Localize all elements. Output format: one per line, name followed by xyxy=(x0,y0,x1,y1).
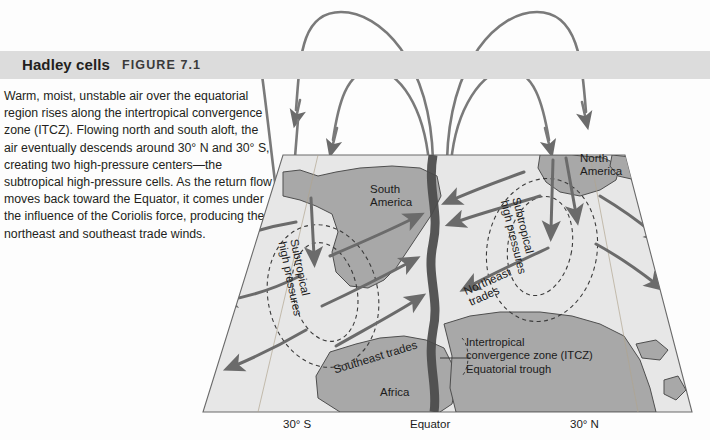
label-itcz: Intertropical convergence zone (ITCZ) Eq… xyxy=(466,336,636,376)
arc-upper-left-inner xyxy=(333,70,429,163)
label-south-america: South America xyxy=(370,183,440,208)
ascending-limb-right xyxy=(452,170,457,196)
caption-text: Warm, moist, unstable air over the equat… xyxy=(4,88,272,243)
figure-number: FIGURE 7.1 xyxy=(122,58,201,72)
arc-upper-left-outer xyxy=(296,12,433,160)
arc-upper-right-outer xyxy=(447,12,586,160)
figure-caption: Warm, moist, unstable air over the equat… xyxy=(4,88,272,243)
axis-label-30n: 30° N xyxy=(570,418,599,431)
axis-label-30s: 30° S xyxy=(283,418,311,431)
axis-label-equator: Equator xyxy=(410,418,450,431)
label-africa: Africa xyxy=(380,386,409,399)
figure-title: Hadley cells xyxy=(22,56,110,73)
hadley-arc-group xyxy=(262,12,586,250)
figure-header-band: Hadley cells FIGURE 7.1 xyxy=(0,51,710,79)
arc-upper-right-inner xyxy=(451,70,549,163)
label-north-america: North America xyxy=(580,152,652,177)
figure-page: Hadley cells FIGURE 7.1 Warm, moist, uns… xyxy=(0,0,710,440)
descend-left-long xyxy=(291,120,298,250)
